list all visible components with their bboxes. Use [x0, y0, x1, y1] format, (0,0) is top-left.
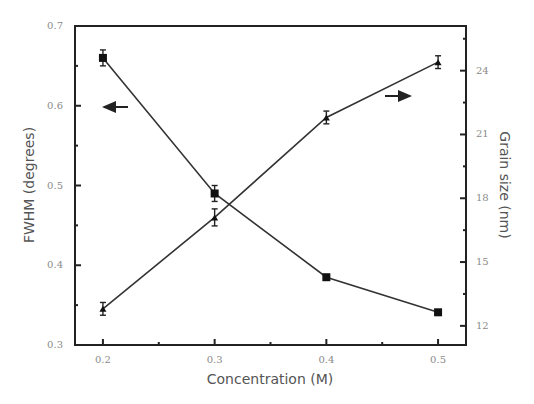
- plot-frame: [75, 26, 466, 345]
- y-right-tick-label: 15: [476, 256, 489, 267]
- grain-size-line: [103, 62, 438, 309]
- fwhm-point: [434, 308, 442, 316]
- y-right-tick-label: 12: [476, 320, 489, 331]
- x-tick-label: 0.5: [430, 354, 446, 365]
- grain-size-point: [435, 59, 442, 65]
- x-tick-label: 0.3: [207, 354, 223, 365]
- y-left-tick-label: 0.5: [47, 180, 63, 191]
- y-right-tick-label: 21: [476, 128, 489, 139]
- y-left-tick-label: 0.3: [47, 339, 63, 350]
- y-axis-left-title: FWHM (degrees): [21, 127, 37, 243]
- series-layer: [99, 50, 442, 316]
- fwhm-point: [99, 54, 107, 62]
- chart: 0.20.30.40.50.30.40.50.60.71215182124 Co…: [0, 0, 534, 404]
- y-left-tick-label: 0.7: [47, 20, 63, 31]
- y-left-tick-label: 0.6: [47, 100, 63, 111]
- fwhm-point: [322, 273, 330, 281]
- y-right-tick-label: 24: [476, 65, 489, 76]
- y-right-tick-label: 18: [476, 192, 489, 203]
- y-left-tick-label: 0.4: [47, 259, 63, 270]
- fwhm-point: [211, 189, 219, 197]
- x-tick-label: 0.2: [95, 354, 111, 365]
- annotations-layer: [104, 96, 410, 107]
- x-axis-title: Concentration (M): [207, 371, 334, 387]
- y-axis-right-title: Grain size (nm): [497, 131, 513, 238]
- x-tick-label: 0.4: [318, 354, 334, 365]
